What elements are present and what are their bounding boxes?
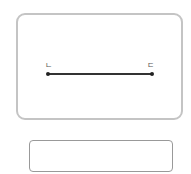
line-segment: [48, 73, 152, 75]
point-label-end: ㄷ: [147, 62, 154, 70]
point-label-start: ㄴ: [45, 62, 52, 70]
answer-input[interactable]: [29, 140, 173, 172]
point-end: [150, 72, 154, 76]
diagram-card: [16, 13, 183, 120]
point-start: [46, 72, 50, 76]
